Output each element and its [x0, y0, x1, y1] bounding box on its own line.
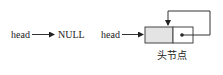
head-node-caption: 头节点 [157, 50, 187, 61]
head-label-empty: head [11, 29, 30, 40]
linked-list-diagram: head NULL head 头节点 [0, 0, 223, 75]
null-label: NULL [58, 29, 85, 40]
head-label-node: head [101, 29, 120, 40]
node-data-field [145, 27, 173, 43]
